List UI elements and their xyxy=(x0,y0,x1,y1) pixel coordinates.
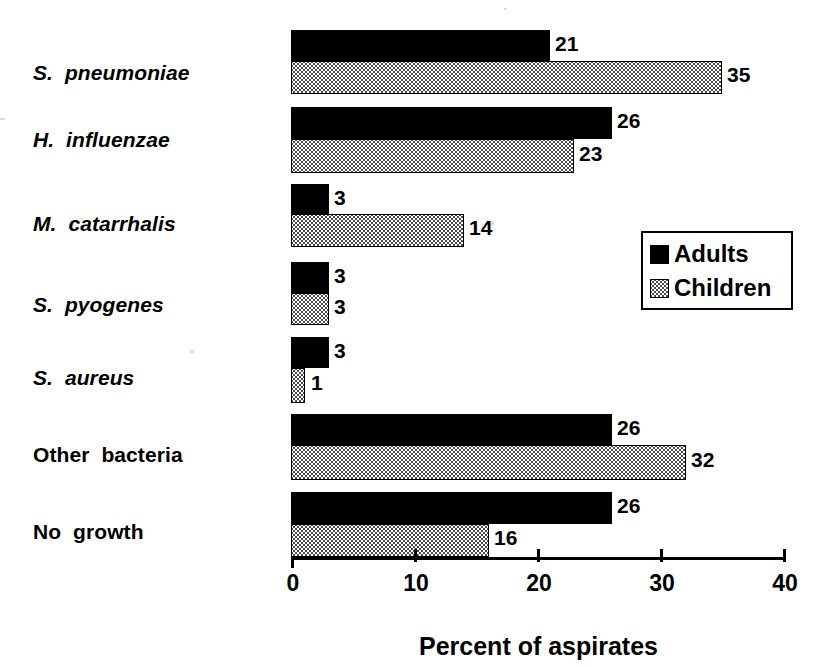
bar-chart: S. pneumoniae H. influenzae M. catarrhal… xyxy=(0,0,816,668)
bar-adults-s-pyogenes xyxy=(291,262,329,293)
value-label-children-no-growth: 16 xyxy=(494,527,517,548)
bar-adults-s-pneumoniae xyxy=(291,30,550,61)
legend-swatch-children-icon xyxy=(650,279,669,298)
value-label-children-s-pyogenes: 3 xyxy=(334,296,346,317)
x-axis-tick-label-30: 30 xyxy=(649,572,675,595)
x-axis-tick-40 xyxy=(783,549,786,562)
value-label-adults-no-growth: 26 xyxy=(617,495,640,516)
value-label-adults-other-bacteria: 26 xyxy=(617,417,640,438)
bar-adults-h-influenzae xyxy=(291,107,612,139)
value-label-adults-s-aureus: 3 xyxy=(334,340,346,361)
bar-children-s-aureus xyxy=(291,368,305,403)
x-axis-title: Percent of aspirates xyxy=(291,634,786,659)
x-axis-tick-label-0: 0 xyxy=(287,572,300,595)
category-label-s-pneumoniae: S. pneumoniae xyxy=(33,62,190,83)
value-label-adults-m-catarrhalis: 3 xyxy=(334,187,346,208)
x-axis-tick-10 xyxy=(414,549,417,562)
legend-label-children: Children xyxy=(674,276,771,300)
chart-legend: Adults Children xyxy=(641,231,793,310)
scan-artifact xyxy=(0,118,5,120)
value-label-children-s-pneumoniae: 35 xyxy=(727,64,750,85)
bar-adults-other-bacteria xyxy=(291,414,612,445)
category-label-s-pyogenes: S. pyogenes xyxy=(33,294,164,315)
x-axis-tick-30 xyxy=(660,549,663,562)
category-label-s-aureus: S. aureus xyxy=(33,367,134,388)
x-axis-tick-label-10: 10 xyxy=(403,572,429,595)
bar-children-other-bacteria xyxy=(291,445,686,480)
bar-children-s-pyogenes xyxy=(291,293,329,325)
bar-adults-s-aureus xyxy=(291,337,329,368)
legend-item-adults: Adults xyxy=(650,237,785,271)
category-label-h-influenzae: H. influenzae xyxy=(33,129,170,150)
legend-swatch-adults-icon xyxy=(650,245,669,264)
value-label-adults-s-pneumoniae: 21 xyxy=(555,33,578,54)
value-label-children-h-influenzae: 23 xyxy=(579,143,602,164)
category-label-m-catarrhalis: M. catarrhalis xyxy=(33,213,176,234)
scan-artifact xyxy=(190,350,194,353)
x-axis-tick-0 xyxy=(291,557,294,568)
bar-adults-m-catarrhalis xyxy=(291,184,329,214)
x-axis-tick-label-40: 40 xyxy=(772,572,798,595)
bar-children-no-growth xyxy=(291,524,489,557)
x-axis-tick-20 xyxy=(537,549,540,562)
bar-children-m-catarrhalis xyxy=(291,214,464,247)
value-label-children-m-catarrhalis: 14 xyxy=(469,217,492,238)
x-axis-tick-label-20: 20 xyxy=(526,572,552,595)
bar-children-h-influenzae xyxy=(291,139,574,173)
scan-artifact xyxy=(504,8,507,10)
category-label-no-growth: No growth xyxy=(33,521,144,542)
category-label-other-bacteria: Other bacteria xyxy=(33,444,183,465)
bar-adults-no-growth xyxy=(291,492,612,524)
legend-item-children: Children xyxy=(650,271,785,305)
value-label-adults-h-influenzae: 26 xyxy=(617,110,640,131)
value-label-children-other-bacteria: 32 xyxy=(691,449,714,470)
legend-label-adults: Adults xyxy=(674,242,749,266)
value-label-adults-s-pyogenes: 3 xyxy=(334,265,346,286)
bar-children-s-pneumoniae xyxy=(291,61,722,94)
value-label-children-s-aureus: 1 xyxy=(311,372,323,393)
